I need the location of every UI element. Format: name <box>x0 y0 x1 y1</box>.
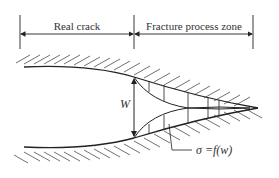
upper-hatching <box>16 55 250 106</box>
stress-relation-label: σ =f(w) <box>196 143 232 157</box>
crack-faces <box>24 66 258 147</box>
crack-diagram: Real crack Fracture process zone <box>0 0 279 178</box>
real-crack-label: Real crack <box>54 20 101 32</box>
leader-line <box>169 124 192 150</box>
fracture-process-zone-label: Fracture process zone <box>146 20 242 32</box>
opening-label: W <box>120 97 131 111</box>
